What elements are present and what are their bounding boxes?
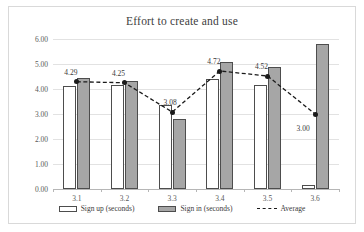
x-axis-tick-label: 3.6 [310, 194, 319, 203]
legend-item-sign-up[interactable]: Sign up (seconds) [59, 204, 135, 213]
y-axis-tick-label: 2.00 [35, 135, 48, 144]
x-axis-tick-label: 3.2 [120, 194, 129, 203]
x-axis-tick-mark [101, 189, 102, 192]
x-axis-tick-label: 3.4 [215, 194, 224, 203]
average-data-label: 3.08 [164, 98, 177, 107]
average-marker [265, 74, 270, 79]
average-data-label: 4.72 [207, 57, 220, 66]
x-axis-tick-mark [291, 189, 292, 192]
x-axis-tick-mark [244, 189, 245, 192]
legend-swatch-sign-in-icon [158, 206, 176, 212]
x-axis-tick-label: 3.1 [72, 194, 81, 203]
x-axis-tick-label: 3.5 [263, 194, 272, 203]
average-data-label: 4.52 [255, 62, 268, 71]
chart-legend: Sign up (seconds) Sign in (seconds) Aver… [9, 204, 355, 213]
legend-label-sign-in: Sign in (seconds) [180, 204, 232, 213]
average-data-label: 4.29 [64, 68, 77, 77]
legend-swatch-sign-up-icon [59, 206, 77, 212]
legend-label-sign-up: Sign up (seconds) [81, 204, 135, 213]
chart-container: Effort to create and use 0.001.002.003.0… [8, 6, 356, 224]
legend-label-average: Average [281, 204, 306, 213]
legend-item-average[interactable]: Average [257, 204, 306, 213]
y-axis-tick-label: 3.00 [35, 110, 48, 119]
chart-title: Effort to create and use [9, 15, 355, 27]
x-axis-tick-mark [53, 189, 54, 192]
y-axis-tick-label: 4.00 [35, 85, 48, 94]
y-axis-tick-label: 0.00 [35, 185, 48, 194]
average-data-label: 3.00 [297, 124, 310, 133]
legend-swatch-average-icon [257, 208, 277, 209]
average-data-label: 4.25 [112, 69, 125, 78]
y-axis-tick-label: 5.00 [35, 60, 48, 69]
x-axis-tick-mark [339, 189, 340, 192]
average-marker [217, 69, 222, 74]
legend-item-sign-in[interactable]: Sign in (seconds) [158, 204, 232, 213]
average-marker [313, 112, 318, 117]
y-axis-tick-label: 6.00 [35, 35, 48, 44]
x-axis-tick-label: 3.3 [167, 194, 176, 203]
y-axis-tick-label: 1.00 [35, 160, 48, 169]
plot-area: 0.001.002.003.004.005.006.00 3.13.23.33.… [53, 39, 339, 189]
average-marker [170, 110, 175, 115]
x-axis-tick-mark [196, 189, 197, 192]
x-axis-tick-mark [148, 189, 149, 192]
average-line-series [53, 39, 339, 189]
